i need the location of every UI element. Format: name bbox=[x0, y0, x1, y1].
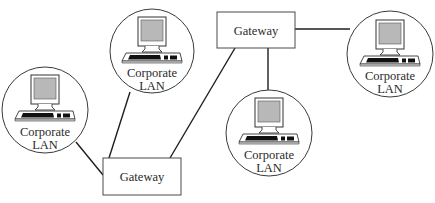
lan-label-line2: LAN bbox=[377, 82, 403, 96]
lan-label-line1: Corporate bbox=[20, 125, 70, 139]
gateway-node-bottom[interactable]: Gateway bbox=[103, 158, 181, 195]
network-diagram: Corporate LAN Corporate LAN Corporate LA… bbox=[0, 0, 435, 203]
gateway-node-top[interactable]: Gateway bbox=[217, 12, 295, 48]
lan-label-line1: Corporate bbox=[244, 148, 294, 162]
lan-node-bottom-middle[interactable]: Corporate LAN bbox=[226, 90, 312, 176]
link-lan-left-to-gateway-bottom bbox=[76, 142, 103, 175]
gateway-label: Gateway bbox=[234, 24, 279, 38]
lan-label-line2: LAN bbox=[32, 138, 58, 152]
gateway-label: Gateway bbox=[120, 170, 165, 184]
lan-node-left[interactable]: Corporate LAN bbox=[2, 67, 88, 153]
lan-node-right[interactable]: Corporate LAN bbox=[347, 11, 433, 97]
lan-label-line1: Corporate bbox=[365, 69, 415, 83]
lan-label-line1: Corporate bbox=[127, 66, 177, 80]
lan-node-top-middle[interactable]: Corporate LAN bbox=[110, 9, 194, 93]
lan-label-line2: LAN bbox=[256, 161, 282, 175]
lan-label-line2: LAN bbox=[139, 79, 165, 93]
link-lan-top-middle-to-gateway-bottom bbox=[109, 92, 130, 158]
